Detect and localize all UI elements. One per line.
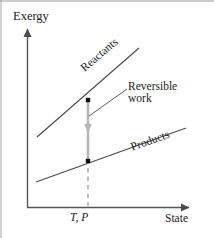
exergy-state-diagram: Exergy State T, P Reactants Products Rev…: [0, 0, 214, 238]
diagram-canvas: [0, 0, 214, 238]
reversible-work-leader-line: [89, 89, 127, 116]
x-axis-tick-label-tp: T, P: [70, 211, 88, 223]
products-state-point: [86, 159, 90, 163]
reactants-state-point: [86, 98, 90, 102]
reversible-work-label-line2: work: [128, 92, 177, 104]
y-axis-label: Exergy: [13, 10, 49, 23]
x-axis-label: State: [165, 212, 188, 224]
reversible-work-arrowhead: [84, 124, 92, 133]
reversible-work-label-line1: Reversible: [128, 80, 177, 92]
reversible-work-label: Reversiblework: [128, 80, 177, 104]
